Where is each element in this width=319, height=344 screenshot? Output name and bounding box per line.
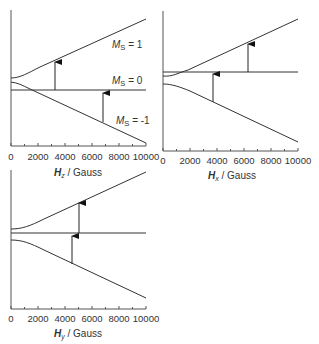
svg-text:10000: 10000 <box>133 313 159 324</box>
svg-text:4000: 4000 <box>54 313 75 324</box>
x-axis-label-hz: Hz / Gauss <box>54 167 102 179</box>
svg-text:4000: 4000 <box>206 155 227 166</box>
svg-text:6000: 6000 <box>81 313 102 324</box>
svg-text:2000: 2000 <box>27 151 48 162</box>
svg-text:0: 0 <box>8 151 13 162</box>
label-ms-minus1: MS = -1 <box>116 115 150 128</box>
svg-text:6000: 6000 <box>233 155 254 166</box>
svg-text:10000: 10000 <box>133 151 159 162</box>
x-tick-labels: 0 2000 4000 6000 8000 10000 <box>160 155 311 166</box>
svg-text:4000: 4000 <box>54 151 75 162</box>
x-axis-label-hy: Hy / Gauss <box>54 328 102 341</box>
svg-text:8000: 8000 <box>108 313 129 324</box>
svg-text:10000: 10000 <box>285 155 311 166</box>
panel-hx: 0 2000 4000 6000 8000 10000 Hx / Gauss <box>160 11 311 182</box>
svg-text:2000: 2000 <box>179 155 200 166</box>
x-tick-labels: 0 2000 4000 6000 8000 10000 <box>8 151 159 162</box>
svg-text:2000: 2000 <box>27 313 48 324</box>
level-lower <box>11 240 146 298</box>
level-lower <box>163 84 298 142</box>
level-upper <box>163 19 298 76</box>
svg-text:6000: 6000 <box>81 151 102 162</box>
svg-text:0: 0 <box>160 155 165 166</box>
zeeman-diagram-figure: MS = 1 MS = 0 MS = -1 0 2000 4000 6000 8… <box>0 0 319 344</box>
svg-text:8000: 8000 <box>260 155 281 166</box>
svg-text:0: 0 <box>8 313 13 324</box>
svg-text:8000: 8000 <box>108 151 129 162</box>
level-ms-minus1 <box>11 82 146 143</box>
x-tick-labels: 0 2000 4000 6000 8000 10000 <box>8 313 159 324</box>
x-axis-label-hx: Hx / Gauss <box>208 170 256 182</box>
label-ms-0: MS = 0 <box>112 75 143 88</box>
label-ms-plus1: MS = 1 <box>112 39 143 52</box>
panel-hz: MS = 1 MS = 0 MS = -1 0 2000 4000 6000 8… <box>8 10 159 179</box>
panel-hy: 0 2000 4000 6000 8000 10000 Hy / Gauss <box>8 170 159 341</box>
